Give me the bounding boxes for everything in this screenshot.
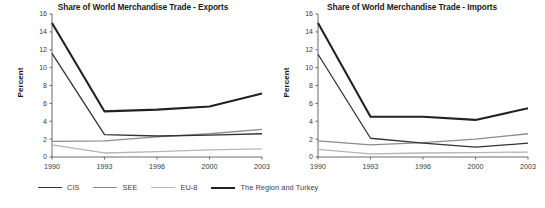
y-tick-label: 10 [305,64,313,71]
y-tick-label: 16 [305,10,313,17]
y-tick-label: 8 [309,82,313,89]
data-line-cis [52,53,262,136]
legend-label-cis: CIS [67,183,79,192]
x-tick-label: 1990 [310,162,326,171]
legend-item-eu8: EU-8 [151,183,197,192]
y-tick-label: 10 [39,64,47,71]
legend-line-swatch-see [93,187,117,188]
y-tick-label: 4 [43,118,47,125]
x-tick-label: 1990 [44,162,60,171]
legend-items: CIS SEE EU-8 The Region and Turkey [38,183,332,192]
y-tick-label: 2 [309,136,313,143]
data-line-eu-8 [52,145,262,153]
plot-area-imports: 024681012141619901993199620002003 [272,0,544,178]
legend-line-swatch-eu8 [151,187,175,188]
chart-legend: CIS SEE EU-8 The Region and Turkey [0,180,545,208]
x-tick-label: 2000 [468,162,484,171]
x-tick-label: 2000 [202,162,218,171]
y-tick-label: 16 [39,10,47,17]
y-tick-label: 12 [39,46,47,53]
legend-item-region-and-turkey: The Region and Turkey [211,183,318,192]
x-tick-label: 1993 [97,162,113,171]
legend-line-swatch-cis [38,187,62,188]
y-tick-label: 6 [309,100,313,107]
y-tick-label: 4 [309,118,313,125]
chart-panel-exports: Share of World Merchandise Trade - Expor… [0,0,272,178]
y-tick-label: 14 [39,28,47,35]
x-tick-label: 1996 [415,162,431,171]
x-tick-label: 1996 [149,162,165,171]
data-line-the-region-and-turkey [52,23,262,111]
legend-label-region-and-turkey: The Region and Turkey [240,183,318,192]
chart-panels: Share of World Merchandise Trade - Expor… [0,0,545,178]
legend-item-see: SEE [93,183,137,192]
data-line-eu-8 [318,149,528,153]
chart-panel-imports: Share of World Merchandise Trade - Impor… [272,0,544,178]
data-line-see [52,129,262,141]
y-tick-label: 0 [43,153,47,160]
legend-item-cis: CIS [38,183,79,192]
legend-label-eu8: EU-8 [180,183,197,192]
y-tick-label: 12 [305,46,313,53]
legend-label-see: SEE [122,183,137,192]
y-tick-label: 14 [305,28,313,35]
y-tick-label: 2 [43,136,47,143]
y-tick-label: 6 [43,100,47,107]
y-tick-label: 0 [309,153,313,160]
legend-line-swatch-region-and-turkey [211,187,235,189]
data-line-cis [318,54,528,147]
figure-two-line-charts: Share of World Merchandise Trade - Expor… [0,0,545,208]
x-tick-label: 1993 [363,162,379,171]
x-tick-label: 2003 [254,162,270,171]
plot-area-exports: 024681012141619901993199620002003 [0,0,272,178]
x-tick-label: 2003 [520,162,536,171]
y-tick-label: 8 [43,82,47,89]
